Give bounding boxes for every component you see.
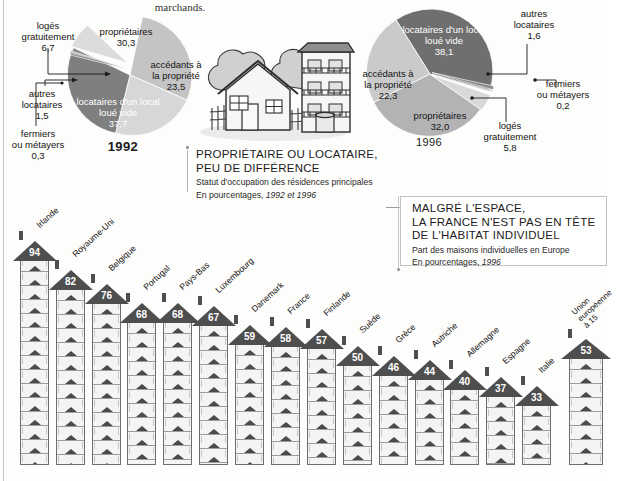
bar-floor <box>344 377 371 391</box>
bar-floor <box>308 388 335 402</box>
bar-floor <box>570 384 602 398</box>
bar-floor <box>236 384 263 398</box>
bar-chimney-icon <box>449 360 453 369</box>
bar-portugal: 68Portugal <box>127 303 156 465</box>
bar-chimney-icon <box>19 231 23 240</box>
bar-floor <box>21 356 48 370</box>
bar-value-label: 58 <box>280 333 291 344</box>
bar-tower <box>522 402 551 465</box>
bar-floor <box>21 412 48 426</box>
bar-tower <box>92 300 121 465</box>
bar-italie: 33Italie <box>522 386 551 465</box>
bar-country-label: France <box>285 291 312 316</box>
bar-espagne: 37Espagne <box>486 377 515 465</box>
bar-tower <box>343 362 372 465</box>
bar-floor <box>451 415 478 429</box>
bar-floor <box>164 362 191 376</box>
bar-floor <box>21 454 48 465</box>
bar-tower <box>271 343 300 465</box>
bar-floor <box>57 371 84 385</box>
bar-value-label: 57 <box>316 335 327 346</box>
bar-country-label: Autriche <box>429 320 459 349</box>
bar-chimney-icon <box>91 274 95 283</box>
bar-chimney-icon <box>568 329 572 338</box>
bar-floor <box>236 426 263 440</box>
bar-tower <box>415 376 444 465</box>
bar-value-label: 50 <box>352 352 363 363</box>
bar-floor <box>308 416 335 430</box>
bar-floor <box>21 286 48 300</box>
bar-floor <box>380 387 407 401</box>
bar-floor <box>344 447 371 461</box>
bar-floor <box>128 348 155 362</box>
bar-country-label: Irlande <box>34 205 60 230</box>
bar-tower <box>235 341 264 465</box>
bar-floor <box>200 351 227 365</box>
bar-floor <box>236 398 263 412</box>
bar-tower <box>569 355 603 465</box>
bar-floor <box>128 362 155 376</box>
bar-floor <box>308 360 335 374</box>
houses-illustration <box>196 12 356 144</box>
bar-floor <box>523 459 550 465</box>
bar-floor <box>570 454 602 465</box>
bar-floor <box>416 433 443 447</box>
bar-chimney-icon <box>414 350 418 359</box>
bar-floor <box>21 314 48 328</box>
bar-floor <box>200 407 227 421</box>
bar-value-label: 76 <box>101 290 112 301</box>
bar-floor <box>21 342 48 356</box>
bar-floor <box>380 443 407 457</box>
bar-floor <box>21 370 48 384</box>
bar-floor <box>57 441 84 455</box>
bar-floor <box>308 430 335 444</box>
bar-floor <box>380 429 407 443</box>
bar-tower <box>20 257 49 465</box>
bar-value-label: 44 <box>424 366 435 377</box>
bar-floor <box>570 412 602 426</box>
bar-chart-maisons-individuelles: 94Irlande82Royaume-Uni76Belgique68Portug… <box>0 215 607 481</box>
bar-floor <box>128 334 155 348</box>
bar-tower <box>486 393 515 465</box>
bar-danemark: 59Danemark <box>235 325 264 465</box>
bar-floor <box>344 391 371 405</box>
bar-floor <box>570 440 602 454</box>
bar-tower <box>163 319 192 465</box>
bar-floor <box>128 390 155 404</box>
panel1-rule <box>187 150 188 192</box>
bar-floor <box>308 402 335 416</box>
bar-floor <box>57 385 84 399</box>
bar-floor <box>272 386 299 400</box>
bar-country-label: Unioneuropéenneà 15 <box>570 281 617 330</box>
bar-floor <box>93 441 120 455</box>
bar-floor <box>21 398 48 412</box>
bar-country-label: Grèce <box>393 322 417 345</box>
bar-country-label: Finlande <box>321 289 352 318</box>
bar-floor <box>200 337 227 351</box>
bar-country-label: Portugal <box>141 263 171 292</box>
bar-floor <box>380 457 407 465</box>
bar-floor <box>523 431 550 445</box>
panel2-title-line1: MALGRÉ L'ESPACE, <box>412 202 602 216</box>
bar-floor <box>570 426 602 440</box>
bar-floor <box>200 435 227 449</box>
bar-floor <box>416 391 443 405</box>
bar-floor <box>57 343 84 357</box>
bar-floor <box>93 427 120 441</box>
bar-floor <box>93 455 120 465</box>
bar-floor <box>57 455 84 465</box>
bar-union-europ-enne-15: 53Unioneuropéenneà 15 <box>569 339 603 465</box>
bar-floor <box>164 390 191 404</box>
bar-chimney-icon <box>126 293 130 302</box>
bar-floor <box>128 446 155 460</box>
bar-luxembourg: 67Luxembourg <box>199 306 228 465</box>
bar-floor <box>93 329 120 343</box>
bar-floor <box>93 413 120 427</box>
panel1-subtitle-years: 1992 et 1996 <box>266 190 316 200</box>
bar-floor <box>451 429 478 443</box>
bar-floor <box>570 398 602 412</box>
bar-floor <box>236 440 263 454</box>
bar-floor <box>21 384 48 398</box>
bar-floor <box>200 365 227 379</box>
bar-floor <box>236 370 263 384</box>
